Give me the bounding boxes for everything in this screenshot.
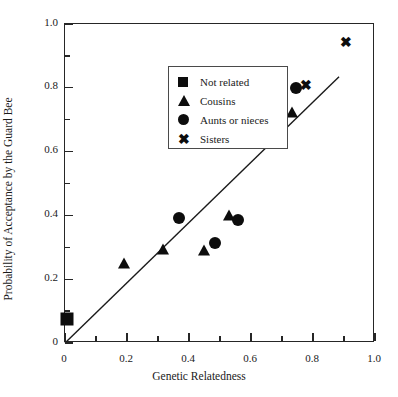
x-axis-label: Genetic Relatedness xyxy=(0,370,398,382)
legend-item-label: Sisters xyxy=(200,133,229,145)
x-axis-major-tick xyxy=(312,333,313,341)
circle-data-point xyxy=(209,237,221,249)
y-axis-major-tick xyxy=(65,215,73,216)
y-tick-label: 1.0 xyxy=(26,16,58,28)
y-axis-minor-tick xyxy=(65,119,70,120)
x-axis-major-tick xyxy=(188,333,189,341)
x-data-point: ✖ xyxy=(300,78,312,92)
triangle-data-point xyxy=(157,243,169,254)
x-axis-major-tick xyxy=(374,333,375,341)
legend-item-label: Aunts or nieces xyxy=(200,114,268,126)
x-axis-major-tick xyxy=(64,333,65,341)
circle-data-point xyxy=(232,214,244,226)
y-tick-label: 0.6 xyxy=(26,143,58,155)
x-axis-minor-tick xyxy=(343,336,344,341)
y-axis-major-tick xyxy=(65,342,73,343)
x-axis-minor-tick xyxy=(281,336,282,341)
y-axis-minor-tick xyxy=(65,310,70,311)
x-axis-minor-tick xyxy=(95,336,96,341)
legend-item-label: Not related xyxy=(200,76,249,88)
triangle-data-point xyxy=(198,245,210,256)
x-tick-label: 0.6 xyxy=(230,352,270,364)
legend-item: Aunts or nieces xyxy=(169,110,287,129)
square-data-point xyxy=(61,313,74,326)
y-tick-label: 0.2 xyxy=(26,271,58,283)
legend-box: Not related Cousins Aunts or nieces ✖ Si… xyxy=(168,66,288,149)
y-tick-label: 0 xyxy=(26,335,58,347)
x-axis-minor-tick xyxy=(157,336,158,341)
y-axis-major-tick xyxy=(65,279,73,280)
y-axis-major-tick xyxy=(65,23,73,24)
triangle-marker-icon xyxy=(178,95,200,106)
circle-data-point xyxy=(173,212,185,224)
x-tick-label: 0 xyxy=(44,352,84,364)
plot-area: ✖✖ Not related Cousins Aunts or nieces xyxy=(64,23,374,342)
legend-item: Not related xyxy=(169,72,287,91)
x-tick-label: 0.8 xyxy=(292,352,332,364)
triangle-data-point xyxy=(286,106,298,117)
x-axis-major-tick xyxy=(250,333,251,341)
y-tick-label: 0.4 xyxy=(26,207,58,219)
x-tick-label: 0.2 xyxy=(106,352,146,364)
x-axis-major-tick xyxy=(126,333,127,341)
x-marker-icon: ✖ xyxy=(178,132,200,146)
y-tick-label: 0.8 xyxy=(26,79,58,91)
circle-marker-icon xyxy=(178,114,200,125)
y-axis-major-tick xyxy=(65,87,73,88)
square-marker-icon xyxy=(178,77,200,87)
triangle-data-point xyxy=(118,258,130,269)
y-axis-label: Probability of Acceptance by the Guard B… xyxy=(0,0,18,397)
x-axis-minor-tick xyxy=(219,336,220,341)
y-axis-minor-tick xyxy=(65,55,70,56)
legend-item: ✖ Sisters xyxy=(169,129,287,148)
x-axis-label-text: Genetic Relatedness xyxy=(152,370,246,382)
legend-item-label: Cousins xyxy=(200,95,235,107)
y-axis-minor-tick xyxy=(65,183,70,184)
y-axis-label-text: Probability of Acceptance by the Guard B… xyxy=(2,97,14,300)
legend-item: Cousins xyxy=(169,91,287,110)
x-tick-label: 0.4 xyxy=(168,352,208,364)
x-tick-label: 1.0 xyxy=(354,352,394,364)
scatter-chart-figure: Probability of Acceptance by the Guard B… xyxy=(0,0,398,397)
y-axis-minor-tick xyxy=(65,247,70,248)
x-data-point: ✖ xyxy=(340,35,352,49)
y-axis-major-tick xyxy=(65,151,73,152)
